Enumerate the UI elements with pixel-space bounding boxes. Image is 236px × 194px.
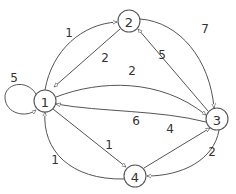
edge-label-2-3: 7 (201, 22, 209, 36)
node-4-label: 4 (131, 170, 139, 185)
edge-1-3 (56, 85, 206, 115)
edge-label-1-2: 1 (65, 26, 73, 40)
edge-label-2-1: 2 (101, 51, 109, 65)
edge-label-1-3: 2 (128, 64, 136, 78)
edge-label-1-4: 1 (105, 138, 113, 152)
edge-1-4 (53, 109, 126, 167)
node-2-label: 2 (125, 15, 133, 30)
node-3: 3 (206, 108, 228, 130)
edge-3-2 (138, 29, 208, 111)
edge-label-3-4: 2 (208, 145, 216, 159)
edge-4-3 (144, 128, 210, 168)
edge-3-1 (56, 104, 206, 122)
edge-label-1-1: 5 (10, 71, 18, 85)
edge-label-3-1: 6 (132, 114, 140, 128)
node-3-label: 3 (213, 113, 221, 128)
node-1-label: 1 (41, 95, 49, 110)
node-4: 4 (124, 165, 146, 187)
node-2: 2 (118, 10, 140, 32)
edge-label-4-3: 4 (166, 122, 174, 136)
edge-1-1 (5, 84, 36, 114)
graph-diagram: 5 1 2 7 5 2 6 1 1 4 2 1 2 3 4 (0, 0, 236, 194)
edge-2-1 (54, 29, 120, 87)
edge-label-3-2: 5 (158, 48, 166, 62)
node-1: 1 (34, 90, 56, 112)
edge-label-4-1: 1 (51, 153, 59, 167)
